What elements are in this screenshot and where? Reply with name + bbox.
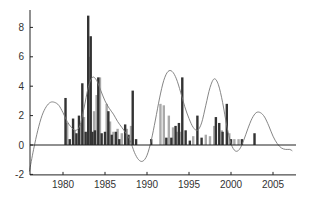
dark-bar (78, 116, 80, 145)
dark-bar (75, 133, 77, 145)
y-tick-label: -2 (15, 169, 24, 180)
light-bar (159, 104, 161, 145)
dark-bar (118, 139, 120, 145)
y-tick-label: 4 (18, 81, 24, 92)
chart-figure: -202468 198019851990199520002005 (0, 0, 313, 199)
light-bar (205, 135, 207, 145)
dark-bar (69, 139, 71, 145)
dark-bar (184, 130, 186, 145)
x-tick-label: 1990 (136, 179, 159, 190)
dark-bar (200, 138, 202, 145)
y-tick-label: 2 (18, 110, 24, 121)
x-tick-label: 1980 (52, 179, 75, 190)
dark-bar (132, 91, 134, 145)
dark-bar (221, 132, 223, 145)
light-bar (121, 133, 123, 145)
dark-bar (178, 123, 180, 145)
dark-bar (174, 126, 176, 145)
dark-bar (165, 138, 167, 145)
y-tick-label: 8 (18, 22, 24, 33)
dark-bar (97, 77, 99, 145)
dark-bar (84, 132, 86, 145)
dark-bar (72, 119, 74, 145)
light-bar (209, 136, 211, 145)
dark-bar (170, 138, 172, 145)
dark-bar (64, 98, 66, 145)
dark-bar (181, 77, 183, 145)
dark-bar (124, 124, 126, 145)
dark-bar (189, 141, 191, 145)
x-tick-label: 2000 (220, 179, 243, 190)
y-tick-label: 6 (18, 51, 24, 62)
light-bar (233, 139, 235, 145)
light-bar (237, 139, 239, 145)
x-tick-label: 1985 (94, 179, 117, 190)
dark-bar (90, 36, 92, 145)
dark-bar (218, 123, 220, 145)
dark-bar (115, 132, 117, 145)
dark-bar (253, 133, 255, 145)
dark-bar (87, 16, 89, 145)
x-tick-label: 1995 (178, 179, 201, 190)
dark-bar (100, 133, 102, 145)
x-tick-label: 2005 (262, 179, 285, 190)
dark-bar (91, 132, 93, 145)
y-tick-label: 0 (18, 140, 24, 151)
light-bar (192, 136, 194, 145)
dark-bar (104, 132, 106, 145)
light-bar (163, 105, 165, 145)
dark-bar (107, 111, 109, 145)
dark-bar (135, 139, 137, 145)
dark-bar (94, 130, 96, 145)
dark-bar (215, 117, 217, 145)
light-bar (168, 116, 170, 145)
dark-bar (111, 135, 113, 145)
